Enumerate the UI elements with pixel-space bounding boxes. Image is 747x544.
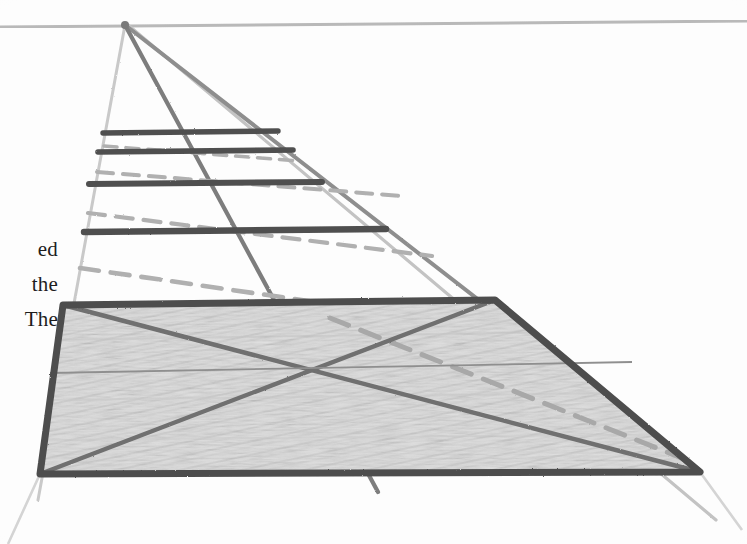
- margin-text-line-1: ed: [0, 232, 62, 267]
- rung-4: [84, 229, 386, 232]
- margin-text-line-2: the: [0, 267, 62, 302]
- rung-3: [89, 182, 322, 184]
- extension-bottom-right: [700, 472, 742, 530]
- margin-text-line-3: The: [0, 302, 62, 337]
- horizon-line: [0, 21, 747, 27]
- rung-2: [98, 150, 293, 152]
- vanishing-point-marker: [121, 21, 129, 29]
- extension-bottom-left: [8, 474, 40, 544]
- margin-text-block: ed the The: [0, 232, 62, 337]
- perspective-construction-figure: [0, 0, 747, 544]
- rung-1: [103, 131, 278, 133]
- sketch-page: ed the The: [0, 0, 747, 544]
